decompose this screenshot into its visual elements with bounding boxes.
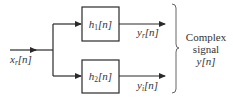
grouping-brace [172,4,179,93]
group-label-line3: y[n] [196,55,216,67]
block-h2-label: h2[n] [89,70,112,84]
group-label-line2: signal [193,43,219,55]
block-h1-label: h1[n] [89,18,112,32]
output-label-yi: yi[n] [136,79,158,93]
output-label-yr: yr[n] [136,26,159,40]
input-label: xr[n] [9,53,32,67]
group-label-line1: Complex [186,31,227,43]
block-diagram: h1[n] h2[n] xr[n] yr[n] yi[n] Complex si… [0,0,233,101]
